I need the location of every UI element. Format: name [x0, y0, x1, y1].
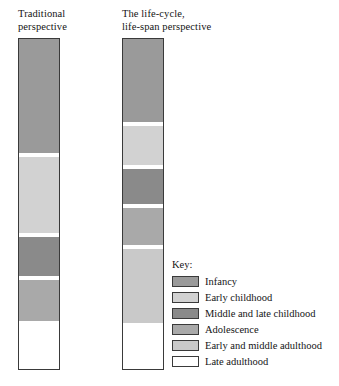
legend-swatch-infancy: [172, 276, 199, 287]
legend-label: Late adulthood: [205, 356, 268, 368]
legend-label: Adolescence: [205, 324, 259, 336]
legend-entry: Late adulthood: [172, 354, 337, 369]
bar-segment-early-and-middle-adulthood: [123, 247, 163, 324]
bar-segment-infancy: [123, 39, 163, 122]
column-title-lifespan: The life-cycle, life-span perspective: [122, 8, 211, 33]
bar-traditional-perspective: [18, 38, 60, 370]
legend-entry-list: InfancyEarly childhoodMiddle and late ch…: [172, 274, 337, 369]
bar-segment-middle-and-late-childhood: [19, 235, 59, 276]
legend-label: Early childhood: [205, 292, 272, 304]
legend-entry: Early and middle adulthood: [172, 338, 337, 353]
legend-swatch-middle-and-late-childhood: [172, 308, 199, 319]
bar-segment-adolescence: [19, 278, 59, 322]
legend-title: Key:: [172, 258, 337, 271]
bar-segment-adolescence: [123, 206, 163, 245]
legend-swatch-early-childhood: [172, 292, 199, 303]
legend-entry: Infancy: [172, 274, 337, 289]
legend-label: Infancy: [205, 276, 237, 288]
bar-segment-late-adulthood: [19, 323, 59, 369]
legend-key: Key: InfancyEarly childhoodMiddle and la…: [172, 258, 337, 370]
column-title-traditional: Traditional perspective: [18, 8, 67, 33]
legend-swatch-late-adulthood: [172, 356, 199, 367]
life-span-stacked-bar-figure: Traditional perspective The life-cycle, …: [0, 0, 339, 386]
legend-entry: Middle and late childhood: [172, 306, 337, 321]
bar-segment-early-childhood: [123, 124, 163, 165]
bar-segment-middle-and-late-childhood: [123, 167, 163, 204]
legend-entry: Early childhood: [172, 290, 337, 305]
legend-entry: Adolescence: [172, 322, 337, 337]
legend-label: Middle and late childhood: [205, 308, 316, 320]
bar-segment-late-adulthood: [123, 325, 163, 369]
bar-lifespan-perspective: [122, 38, 164, 370]
legend-swatch-adolescence: [172, 324, 199, 335]
legend-label: Early and middle adulthood: [205, 340, 322, 352]
bar-segment-early-childhood: [19, 155, 59, 233]
legend-swatch-early-and-middle-adulthood: [172, 340, 199, 351]
bar-segment-infancy: [19, 39, 59, 153]
